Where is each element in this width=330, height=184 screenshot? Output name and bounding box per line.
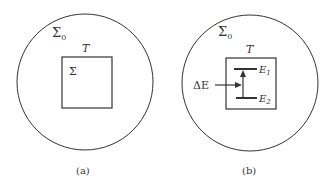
energy-arrowhead-icon [235, 82, 242, 88]
temperature-label: T [82, 42, 91, 55]
reservoir-label: Σ0 [52, 25, 66, 42]
lower-level-label: E2 [258, 93, 271, 106]
caption-a: (a) [76, 165, 90, 176]
energy-label: ΔE [193, 79, 209, 92]
panel-b: Σ0 T E1 E2 ΔE (b) [182, 15, 318, 176]
caption-b: (b) [242, 165, 256, 176]
reservoir-label: Σ0 [218, 24, 232, 41]
panel-a: Σ0 T Σ (a) [17, 14, 153, 176]
reservoir-circle [17, 14, 153, 150]
system-label: Σ [69, 65, 77, 78]
temperature-label: T [246, 43, 255, 56]
transition-arrowhead-icon [240, 70, 246, 77]
upper-level-label: E1 [258, 64, 271, 77]
diagram: Σ0 T Σ (a) Σ0 T E1 E2 ΔE (b) [0, 0, 330, 184]
